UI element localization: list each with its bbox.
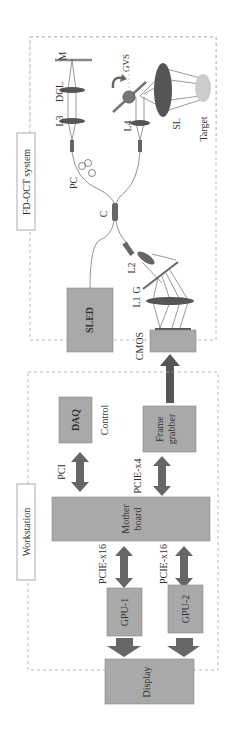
label-sled: SLED xyxy=(84,307,95,333)
label-motherboard-1: Mother xyxy=(120,504,131,534)
label-motherboard-2: board xyxy=(132,508,143,531)
label-cmos: CMOS xyxy=(134,332,145,360)
label-m: M xyxy=(57,51,68,60)
l1-lens xyxy=(146,297,194,305)
fdoct-workstation-diagram: FD-OCT system M DCL L3 PC L4 GVS SL xyxy=(0,0,228,737)
label-sl: SL xyxy=(171,118,182,130)
pcie-x4-arrow xyxy=(153,456,171,496)
label-daq: DAQ xyxy=(70,409,81,431)
label-pcie-x16-1: PCIE-x16 xyxy=(97,544,108,584)
ref-collimator xyxy=(70,140,74,152)
gpu1-to-display-arrow xyxy=(107,638,141,657)
pcie-x16-arrow-1 xyxy=(115,546,133,588)
pcie-x16-arrow-2 xyxy=(175,546,193,588)
sl-lens xyxy=(154,63,172,117)
label-l1: L1 xyxy=(131,296,142,307)
label-frame-grabber-2: grabber xyxy=(166,413,177,444)
label-pci: PCI xyxy=(56,464,67,480)
label-pcie-x16-2: PCIE-x16 xyxy=(158,544,169,584)
target xyxy=(195,74,211,102)
sample-collimator xyxy=(138,140,142,152)
label-c: C xyxy=(98,210,109,217)
label-display: Display xyxy=(141,666,152,697)
label-gvs: GVS xyxy=(121,54,131,72)
pci-arrow xyxy=(71,452,89,492)
label-pc: PC xyxy=(68,177,79,190)
label-l4: L4 xyxy=(122,120,133,131)
cmos-box xyxy=(150,330,196,352)
motherboard-box xyxy=(52,497,210,541)
fdoct-title: FD-OCT system xyxy=(21,149,32,215)
gpu2-to-display-arrow xyxy=(167,638,200,657)
label-dcl: DCL xyxy=(54,82,65,102)
label-g: G xyxy=(131,286,142,293)
label-gpu2: GPU-2 xyxy=(180,595,191,623)
workstation-title: Workstation xyxy=(21,508,32,557)
label-l2: L2 xyxy=(126,262,137,273)
label-l3: L3 xyxy=(54,115,65,126)
label-control: Control xyxy=(99,405,110,436)
data-arrow-cmos-to-framegrabber xyxy=(160,354,180,403)
label-pcie-x4: PCIE-x4 xyxy=(132,459,143,494)
label-frame-grabber-1: Frame xyxy=(154,416,165,442)
label-gpu1: GPU-1 xyxy=(119,598,130,626)
coupler xyxy=(112,203,118,221)
label-target: Target xyxy=(198,116,209,141)
gvs-motor xyxy=(123,91,135,103)
l4-lens xyxy=(130,120,150,126)
